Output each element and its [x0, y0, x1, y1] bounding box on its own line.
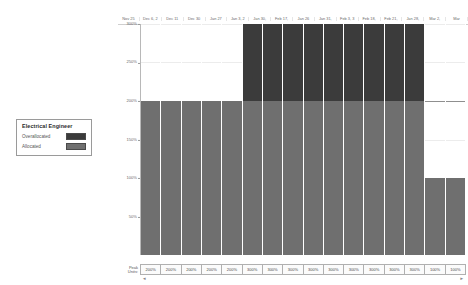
scroll-right-icon[interactable]: ► [458, 277, 466, 282]
bar-segment-allocated [446, 178, 465, 255]
timescale-cell: Mar 2, [424, 17, 446, 21]
bar-column[interactable] [324, 24, 344, 255]
y-axis-tick: 300% [127, 22, 137, 26]
bar-segment-allocated [344, 101, 363, 255]
legend-swatch-allocated [66, 143, 86, 150]
y-axis-tick: 200% [127, 99, 137, 103]
legend-item-label: Overallocated [22, 135, 50, 140]
bar-column[interactable] [243, 24, 263, 255]
peak-units-cell: 300% [304, 264, 324, 275]
peak-units-cell: 300% [243, 264, 263, 275]
bar-segment-overallocated [405, 24, 424, 101]
peak-units-cells: 200%200%200%200%200%300%300%300%300%300%… [140, 264, 466, 275]
bar-column[interactable] [222, 24, 242, 255]
timescale-cell: Dec 6, 2 [140, 17, 162, 21]
y-axis-tick: 100% [127, 176, 137, 180]
bar-segment-overallocated [304, 24, 323, 101]
bar-segment-overallocated [324, 24, 343, 101]
timescale-cell: Feb 17, [271, 17, 293, 21]
bar-segment-allocated [364, 101, 383, 255]
peak-units-row: Peak Units: 200%200%200%200%200%300%300%… [118, 264, 466, 275]
peak-units-label: Peak Units: [118, 264, 140, 275]
peak-units-cell: 300% [405, 264, 425, 275]
peak-units-cell: 100% [446, 264, 466, 275]
bar-segment-allocated [141, 101, 160, 255]
bar-column[interactable] [364, 24, 384, 255]
chart-pane: Nov 25Dec 6, 2Dec 11Dec 30Jan 27Jan 3, 2… [118, 0, 468, 285]
bar-segment-allocated [182, 101, 201, 255]
bar-segment-overallocated [263, 24, 282, 101]
peak-units-cell: 300% [263, 264, 283, 275]
legend-swatch-overallocated [66, 133, 86, 140]
resource-graph-view: Electrical Engineer Overallocated Alloca… [0, 0, 468, 285]
timescale-cell: Jan 26 [293, 17, 315, 21]
timescale-cell: Feb 3, 3 [337, 17, 359, 21]
timescale-cell: Jan 30, [249, 17, 271, 21]
chart-legend: Electrical Engineer Overallocated Alloca… [16, 119, 92, 156]
peak-units-cell: 300% [283, 264, 303, 275]
timescale-cell: Dec 11 [162, 17, 184, 21]
bar-column[interactable] [446, 24, 466, 255]
peak-units-cell: 300% [344, 264, 364, 275]
bar-column[interactable] [385, 24, 405, 255]
timescale-cell: Feb 21, [381, 17, 403, 21]
bar-segment-allocated [161, 101, 180, 255]
y-axis-tick: 150% [127, 137, 137, 141]
bar-segment-allocated [263, 101, 282, 255]
bar-segment-overallocated [385, 24, 404, 101]
bar-column[interactable] [425, 24, 445, 255]
bar-series-container [141, 24, 466, 255]
bar-column[interactable] [405, 24, 425, 255]
peak-units-cell: 200% [182, 264, 202, 275]
timescale-cell: Feb 18, [359, 17, 381, 21]
bar-segment-allocated [304, 101, 323, 255]
timescale-cell: Jan 31, [315, 17, 337, 21]
timescale-cell: Jan 28, [402, 17, 424, 21]
peak-units-cell: 300% [324, 264, 344, 275]
peak-units-cell: 200% [161, 264, 181, 275]
bar-segment-overallocated [243, 24, 262, 101]
scroll-left-icon[interactable]: ◄ [140, 277, 148, 282]
bar-segment-allocated [202, 101, 221, 255]
timescale-cell: Jan 27 [206, 17, 228, 21]
bar-column[interactable] [141, 24, 161, 255]
bar-segment-overallocated [364, 24, 383, 101]
peak-units-cell: 200% [222, 264, 242, 275]
bar-column[interactable] [304, 24, 324, 255]
bar-segment-allocated [222, 101, 241, 255]
bar-segment-allocated [283, 101, 302, 255]
bar-segment-allocated [425, 178, 444, 255]
y-axis-tick: 250% [127, 60, 137, 64]
plot-area [140, 24, 466, 255]
legend-pane: Electrical Engineer Overallocated Alloca… [0, 0, 119, 285]
bar-segment-allocated [324, 101, 343, 255]
bar-segment-allocated [243, 101, 262, 255]
bar-segment-overallocated [283, 24, 302, 101]
timescale-cell: Mar [446, 17, 468, 21]
bar-column[interactable] [344, 24, 364, 255]
bar-column[interactable] [202, 24, 222, 255]
timescale-cell: Dec 30 [184, 17, 206, 21]
legend-title: Electrical Engineer [22, 124, 86, 129]
bar-segment-allocated [405, 101, 424, 255]
bar-segment-allocated [385, 101, 404, 255]
bar-column[interactable] [283, 24, 303, 255]
peak-units-cell: 200% [141, 264, 161, 275]
bar-column[interactable] [161, 24, 181, 255]
y-axis: 300%250%200%150%100%50% [118, 24, 140, 255]
legend-item-allocated: Allocated [22, 143, 86, 150]
y-axis-tick: 50% [129, 214, 137, 218]
peak-units-cell: 300% [385, 264, 405, 275]
scroll-indicators: ◄ ► [140, 276, 466, 283]
bar-segment-overallocated [344, 24, 363, 101]
legend-item-label: Allocated [22, 145, 41, 150]
timescale-cell: Jan 3, 2 [227, 17, 249, 21]
peak-units-cell: 100% [425, 264, 445, 275]
peak-units-cell: 200% [202, 264, 222, 275]
peak-units-cell: 300% [364, 264, 384, 275]
plot-area-wrapper: 300%250%200%150%100%50% [118, 24, 468, 255]
legend-item-overallocated: Overallocated [22, 133, 86, 140]
bar-column[interactable] [182, 24, 202, 255]
bar-column[interactable] [263, 24, 283, 255]
